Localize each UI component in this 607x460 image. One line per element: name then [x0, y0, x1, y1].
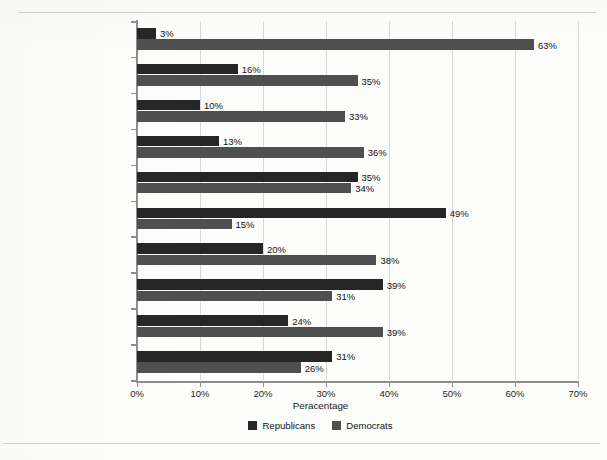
x-axis-title-text: Peracentage [293, 400, 349, 411]
bar-value-label: 3% [160, 28, 174, 39]
bar-value-label: 33% [349, 111, 368, 122]
x-tick-mark-60 [515, 382, 516, 387]
x-tick-label: 30% [316, 388, 335, 399]
bar-democrats-white-catholic [137, 183, 351, 194]
bar-value-label: 26% [305, 362, 324, 373]
bar-value-label: 63% [538, 39, 557, 50]
gridline-70 [578, 21, 579, 380]
bar-democrats-white-evangelical [137, 219, 232, 230]
bar-democrats-income-above-150-000 [137, 291, 332, 302]
bar-republicans-white-catholic [137, 172, 358, 183]
bar-republicans-male [137, 351, 332, 362]
bar-value-label: 39% [387, 279, 406, 290]
bar-value-label: 38% [380, 255, 399, 266]
bar-republicans-african-american [137, 28, 156, 39]
legend-item-democrats[interactable]: Democrats [332, 420, 392, 431]
bar-value-label: 16% [242, 64, 261, 75]
bar-value-label: 13% [223, 136, 242, 147]
x-tick-label: 0% [130, 388, 144, 399]
x-tick-label: 50% [442, 388, 461, 399]
x-tick-label: 40% [379, 388, 398, 399]
x-tick-label: 70% [568, 388, 587, 399]
bar-democrats-asian-american [137, 111, 345, 122]
bar-value-label: 31% [336, 290, 355, 301]
bar-value-label: 31% [336, 351, 355, 362]
bar-republicans-female [137, 315, 288, 326]
bottom-divider-rule [2, 443, 600, 444]
bar-value-label: 35% [362, 171, 381, 182]
bar-democrats-hispanic [137, 75, 358, 86]
x-tick-label: 20% [253, 388, 272, 399]
bar-democrats-african-american [137, 39, 534, 50]
x-tick-mark-70 [578, 382, 579, 387]
x-tick-mark-0 [137, 382, 138, 387]
bar-value-label: 36% [368, 147, 387, 158]
legend-swatch-icon [248, 421, 257, 430]
x-tick-label: 10% [190, 388, 209, 399]
bar-value-label: 20% [267, 243, 286, 254]
legend-label: Democrats [346, 420, 392, 431]
bar-value-label: 39% [387, 326, 406, 337]
bar-democrats-female [137, 327, 383, 338]
bar-republicans-hispanic [137, 64, 238, 75]
bar-value-label: 34% [355, 183, 374, 194]
chart-legend: RepublicansDemocrats [0, 420, 607, 431]
bar-republicans-jewish [137, 136, 219, 147]
bar-republicans-income-below-30-000 [137, 243, 263, 254]
x-axis-line [136, 381, 579, 383]
bar-democrats-income-below-30-000 [137, 255, 376, 266]
y-tick-mark [131, 380, 137, 382]
x-tick-label: 60% [505, 388, 524, 399]
bar-republicans-asian-american [137, 100, 200, 111]
top-divider-rule [18, 12, 596, 13]
bar-value-label: 24% [292, 315, 311, 326]
x-tick-mark-50 [452, 382, 453, 387]
legend-item-republicans[interactable]: Republicans [248, 420, 315, 431]
bar-republicans-white-evangelical [137, 208, 446, 219]
legend-swatch-icon [332, 421, 341, 430]
x-tick-mark-20 [263, 382, 264, 387]
bar-value-label: 15% [236, 219, 255, 230]
bar-republicans-income-above-150-000 [137, 279, 383, 290]
x-tick-mark-10 [200, 382, 201, 387]
bar-democrats-jewish [137, 147, 364, 158]
bar-value-label: 10% [204, 100, 223, 111]
x-tick-mark-30 [326, 382, 327, 387]
bar-chart: 0%10%20%30%40%50%60%70% African American… [0, 0, 607, 460]
bar-democrats-male [137, 362, 301, 373]
x-axis-title: Peracentage [0, 400, 607, 411]
plot-area: 3%63%16%35%10%33%13%36%35%34%49%15%20%38… [137, 21, 578, 380]
x-tick-mark-40 [389, 382, 390, 387]
bar-value-label: 35% [362, 75, 381, 86]
bar-value-label: 49% [450, 207, 469, 218]
legend-label: Republicans [262, 420, 315, 431]
